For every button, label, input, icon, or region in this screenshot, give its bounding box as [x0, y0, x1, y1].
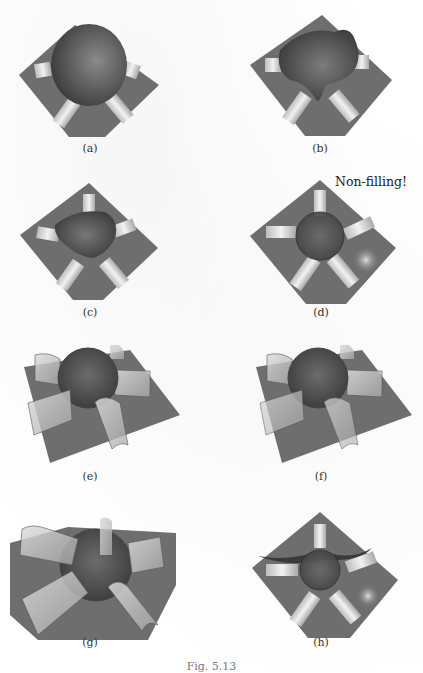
panel-h-label: (h) — [301, 636, 341, 649]
panel-h — [250, 510, 400, 640]
panel-g-label: (g) — [70, 636, 110, 649]
sphere-with-walls-illustration — [20, 345, 185, 470]
wing-surface-illustration — [250, 510, 400, 640]
hollow-sphere-illustration — [248, 178, 398, 306]
twisted-blob-illustration — [15, 180, 165, 305]
panel-f — [252, 345, 417, 470]
non-filling-annotation: Non-filling! — [335, 174, 407, 189]
sphere-blob-illustration — [15, 5, 165, 145]
figure-caption: Fig. 5.13 — [0, 660, 423, 673]
panel-c-label: (c) — [70, 306, 110, 319]
panel-g — [8, 515, 178, 640]
panel-b-label: (b) — [300, 142, 340, 155]
panel-d-label: (d) — [301, 306, 341, 319]
panel-e-label: (e) — [70, 470, 110, 483]
panel-e — [20, 345, 185, 470]
transparent-sphere-with-walls-illustration — [252, 345, 417, 470]
star-blob-illustration — [245, 10, 395, 145]
panel-c — [15, 180, 165, 305]
panel-a-label: (a) — [70, 142, 110, 155]
closeup-sphere-illustration — [8, 515, 178, 640]
panel-a — [15, 5, 165, 145]
panel-f-label: (f) — [301, 470, 341, 483]
panel-b — [245, 10, 395, 145]
panel-d — [248, 178, 398, 306]
